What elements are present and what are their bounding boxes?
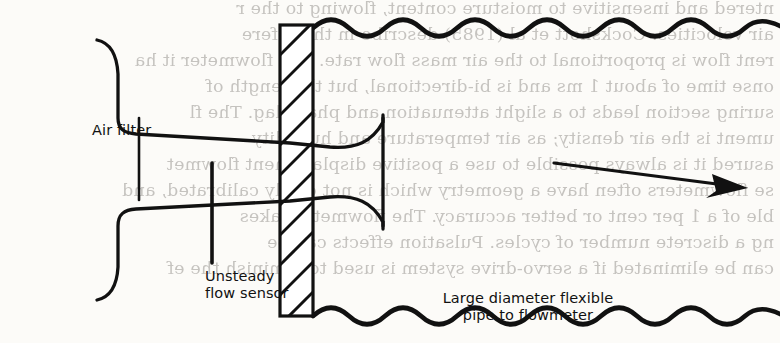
label-unsteady-flow-sensor: Unsteady flow sensor (205, 268, 289, 302)
flow-arrow-shaft (554, 163, 740, 187)
label-air-filter: Air filter (92, 122, 151, 139)
wavy-top-line (313, 20, 780, 37)
schematic-drawing (0, 0, 780, 343)
label-large-diameter-flexible-pipe: Large diameter flexible pipe to flowmete… (443, 290, 614, 324)
figure-canvas: ntered and insensitive to moisture conte… (0, 0, 780, 343)
flow-arrow-head (706, 174, 748, 198)
